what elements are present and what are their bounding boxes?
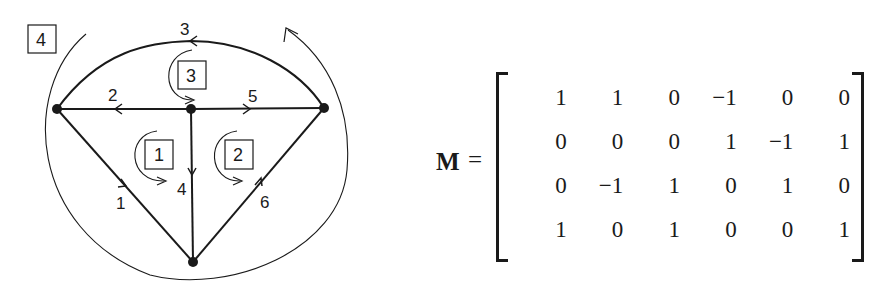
matrix-cell: 0: [510, 173, 567, 199]
matrix-cell: 1: [567, 85, 624, 111]
matrix-cell: 0: [510, 129, 567, 155]
equals-sign: =: [468, 146, 482, 174]
matrix-row-4: 1 0 1 0 0 1: [510, 208, 850, 252]
matrix-cell: 1: [510, 217, 567, 243]
branch-6: [193, 108, 324, 262]
matrix-cell: 1: [793, 129, 850, 155]
branch-2-label: 2: [108, 86, 117, 105]
left-bracket: [496, 72, 508, 262]
matrix-cell: 0: [737, 217, 794, 243]
branch-4-label: 4: [177, 180, 186, 199]
branch-1-label: 1: [116, 194, 125, 213]
matrix-cell: 0: [793, 85, 850, 111]
matrix-cell: 1: [737, 173, 794, 199]
circuit-graph: 4 3 1 2 1 2 3 4 5 6: [0, 0, 360, 283]
matrix-cell: 1: [793, 217, 850, 243]
node-center: [186, 104, 196, 114]
mesh-4-label: 4: [36, 30, 46, 50]
matrix-cell: 1: [510, 85, 567, 111]
branch-5-label: 5: [248, 87, 257, 106]
branch-6-label: 6: [260, 193, 269, 212]
matrix-cell: 1: [623, 217, 680, 243]
node-bottom: [188, 257, 198, 267]
mesh-3-label: 3: [186, 66, 196, 86]
matrix-cell: 0: [793, 173, 850, 199]
branch-4: [191, 109, 193, 262]
matrix-cell: 0: [680, 173, 737, 199]
matrix-cell: 0: [567, 217, 624, 243]
mesh-1-label: 1: [154, 145, 164, 165]
node-left: [52, 104, 62, 114]
mesh-2-label: 2: [233, 145, 243, 165]
matrix-cell: −1: [567, 173, 624, 199]
matrix-cell: 0: [737, 85, 794, 111]
matrix-cell: −1: [680, 85, 737, 111]
matrix-row-1: 1 1 0 −1 0 0: [510, 76, 850, 120]
branch-5: [191, 108, 324, 109]
matrix-row-3: 0 −1 1 0 1 0: [510, 164, 850, 208]
matrix-equation: M = 1 1 0 −1 0 0 0 0 0 1 −1 1 0 −1 1 0 1…: [436, 72, 872, 266]
mesh-4-arrowhead: [284, 28, 298, 42]
matrix-cell: 1: [623, 173, 680, 199]
matrix-cell: 0: [623, 129, 680, 155]
node-right: [319, 103, 329, 113]
matrix-cell: 0: [680, 217, 737, 243]
matrix-cell: 0: [623, 85, 680, 111]
matrix-cell: 0: [567, 129, 624, 155]
branch-3-label: 3: [180, 20, 189, 39]
matrix-row-2: 0 0 0 1 −1 1: [510, 120, 850, 164]
matrix-grid: 1 1 0 −1 0 0 0 0 0 1 −1 1 0 −1 1 0 1 0 1…: [510, 76, 850, 252]
matrix-cell: −1: [737, 129, 794, 155]
matrix-name: M: [436, 148, 460, 176]
matrix-cell: 1: [680, 129, 737, 155]
right-bracket: [852, 72, 864, 262]
